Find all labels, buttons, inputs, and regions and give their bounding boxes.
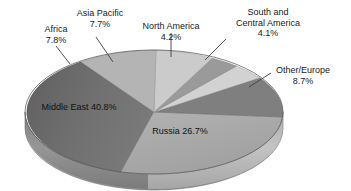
- slice-label-russia: Russia 26.7%: [140, 126, 220, 137]
- callout-other-europe: Other/Europe 8.7%: [263, 65, 343, 86]
- slice-label-russia-name: Russia: [152, 126, 180, 136]
- slice-label-middle-east-name: Middle East: [41, 102, 88, 112]
- slice-label-middle-east: Middle East 40.8%: [33, 102, 125, 113]
- callout-africa-value: 7.8%: [26, 35, 86, 46]
- callout-other-europe-label: Other/Europe: [263, 65, 343, 76]
- callout-north-america: North America 4.2%: [128, 21, 214, 42]
- callout-south-central-america-label-line2: Central America: [219, 18, 317, 29]
- callout-asia-pacific-label: Asia Pacific: [62, 8, 138, 19]
- callout-asia-pacific: Asia Pacific 7.7%: [62, 8, 138, 29]
- callout-south-central-america-label-line1: South and: [219, 7, 317, 18]
- callout-north-america-label: North America: [128, 21, 214, 32]
- callout-other-europe-value: 8.7%: [263, 76, 343, 87]
- pie-chart: Africa 7.8% Asia Pacific 7.7% North Amer…: [0, 0, 351, 191]
- slice-label-middle-east-value: 40.8%: [91, 102, 117, 112]
- callout-south-central-america: South and Central America 4.1%: [219, 7, 317, 39]
- callout-south-central-america-value: 4.1%: [219, 28, 317, 39]
- slice-label-russia-value: 26.7%: [182, 126, 208, 136]
- leader-line-africa: [56, 46, 70, 64]
- callout-north-america-value: 4.2%: [128, 32, 214, 43]
- callout-asia-pacific-value: 7.7%: [62, 19, 138, 30]
- leader-line-south-central-america: [205, 39, 226, 60]
